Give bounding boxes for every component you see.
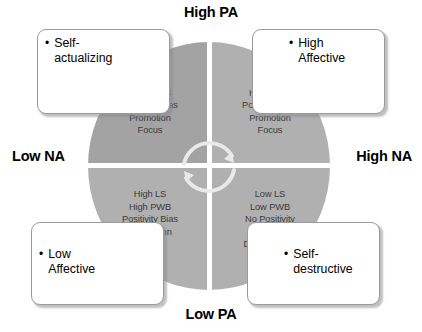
horizontal-divider [84,163,334,168]
bullet-icon: • [284,247,288,262]
quadrant-diagram: High PA Low PA Low NA High NA High LS Hi… [0,0,422,332]
axis-label-high-pa: High PA [0,4,422,20]
callout-self-destructive-label: Self- destructive [293,247,352,276]
axis-label-high-na: High NA [356,148,412,164]
callout-low-affective[interactable]: • Low Affective [31,222,164,305]
bullet-icon: • [289,36,293,51]
callout-high-affective-label: High Affective [298,36,345,65]
axis-label-low-na: Low NA [12,148,65,164]
callout-self-actualizing-label: Self- actualizing [54,36,112,65]
bullet-icon: • [39,247,43,262]
callout-self-destructive[interactable]: • Self- destructive [247,222,380,305]
axis-label-low-pa: Low PA [0,306,422,322]
bullet-icon: • [45,36,49,51]
callout-self-actualizing[interactable]: • Self- actualizing [37,29,170,114]
callout-high-affective[interactable]: • High Affective [252,29,385,114]
callout-low-affective-label: Low Affective [48,247,95,276]
